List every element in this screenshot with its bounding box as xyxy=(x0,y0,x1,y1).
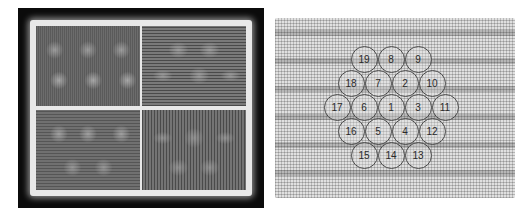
cell-circle: 2 xyxy=(392,70,419,97)
cell-circle: 16 xyxy=(338,118,365,145)
cell-circle: 15 xyxy=(351,142,378,169)
cell-circle: 13 xyxy=(405,142,432,169)
cell-circle: 5 xyxy=(365,118,392,145)
cell-circle: 9 xyxy=(405,46,432,73)
cell-circle: 1 xyxy=(378,94,405,121)
cell-circle: 7 xyxy=(365,70,392,97)
cell-circle: 19 xyxy=(351,46,378,73)
cell-circle: 6 xyxy=(351,94,378,121)
cell-circle: 8 xyxy=(378,46,405,73)
cell-circle: 11 xyxy=(432,94,459,121)
cell-circle: 3 xyxy=(405,94,432,121)
cell-circle: 18 xyxy=(338,70,365,97)
circle-array: 19891872101761311165412151413 xyxy=(0,0,531,215)
cell-circle: 4 xyxy=(392,118,419,145)
cell-circle: 12 xyxy=(419,118,446,145)
cell-circle: 14 xyxy=(378,142,405,169)
cell-circle: 10 xyxy=(419,70,446,97)
cell-circle: 17 xyxy=(324,94,351,121)
